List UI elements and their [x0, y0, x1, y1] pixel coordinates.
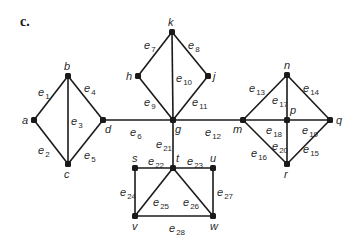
vertex-label-a: a — [22, 114, 28, 126]
vertex-r — [284, 161, 290, 167]
edge-label-e12: e12 — [205, 126, 222, 141]
edge-label-e4: e4 — [84, 82, 96, 97]
vertex-label-g: g — [175, 123, 182, 135]
vertex-label-h: h — [126, 70, 132, 82]
edge-label-e1: e1 — [38, 86, 50, 101]
edge-e1 — [34, 76, 68, 120]
vertex-a — [31, 117, 37, 123]
vertex-label-v: v — [132, 220, 139, 232]
edge-label-e16: e16 — [251, 147, 268, 162]
edge-label-e26: e26 — [183, 196, 200, 211]
edge-label-e6: e6 — [130, 126, 142, 141]
vertex-q — [327, 117, 333, 123]
vertex-label-q: q — [336, 114, 343, 126]
edge-label-e11: e11 — [192, 96, 208, 111]
edge-label-e3: e3 — [71, 115, 83, 130]
edge-label-e15: e15 — [303, 143, 320, 158]
vertex-h — [135, 73, 141, 79]
edge-label-e8: e8 — [188, 39, 200, 54]
edge-label-e2: e2 — [38, 144, 50, 159]
vertex-p — [284, 117, 290, 123]
edge-e2 — [34, 120, 68, 164]
vertex-label-n: n — [284, 59, 290, 71]
edge-label-e7: e7 — [144, 39, 156, 54]
vertex-n — [284, 72, 290, 78]
edge-label-e19: e19 — [302, 124, 319, 139]
vertex-j — [205, 73, 211, 79]
graph-diagram: e1e2e3e4e5e6e7e8e9e10e11e12e13e14e15e16e… — [0, 0, 362, 249]
vertex-w — [210, 213, 216, 219]
vertex-t — [170, 165, 176, 171]
edge-label-e20: e20 — [272, 140, 289, 155]
vertex-label-w: w — [210, 220, 219, 232]
edge-label-e18: e18 — [266, 124, 283, 139]
labels-layer: e1e2e3e4e5e6e7e8e9e10e11e12e13e14e15e16e… — [22, 16, 343, 237]
vertex-label-j: j — [211, 70, 216, 82]
edge-label-e10: e10 — [176, 72, 193, 87]
edge-label-e27: e27 — [217, 186, 234, 201]
vertex-label-p: p — [289, 104, 296, 116]
edge-label-e28: e28 — [169, 222, 186, 237]
vertex-label-t: t — [176, 152, 180, 164]
vertex-label-u: u — [210, 152, 216, 164]
edge-e15 — [287, 120, 330, 164]
vertex-label-b: b — [64, 60, 70, 72]
vertex-label-m: m — [233, 123, 242, 135]
vertex-v — [132, 213, 138, 219]
edge-label-e21: e21 — [156, 138, 173, 153]
vertex-k — [169, 29, 175, 35]
vertex-label-d: d — [105, 123, 112, 135]
edge-e10 — [172, 32, 173, 120]
vertex-label-r: r — [284, 168, 289, 180]
edge-label-e9: e9 — [144, 96, 156, 111]
vertex-label-c: c — [64, 168, 70, 180]
edge-label-e24: e24 — [120, 186, 137, 201]
vertex-s — [132, 165, 138, 171]
vertex-b — [65, 73, 71, 79]
edge-label-e25: e25 — [153, 196, 170, 211]
edge-label-e17: e17 — [272, 94, 289, 109]
edge-label-e5: e5 — [84, 149, 96, 164]
vertex-label-k: k — [168, 16, 174, 28]
vertex-c — [65, 161, 71, 167]
vertex-u — [210, 165, 216, 171]
vertex-label-s: s — [132, 152, 138, 164]
edge-label-e13: e13 — [249, 82, 266, 97]
